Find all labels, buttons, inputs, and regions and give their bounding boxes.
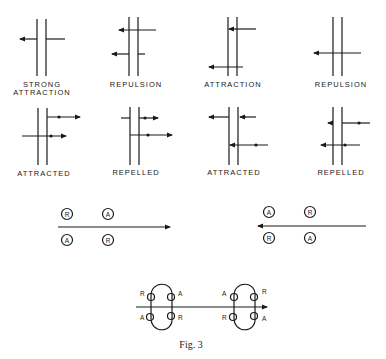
pole-a: A: [267, 209, 272, 216]
panel-attraction: ATTRACTION: [204, 17, 261, 89]
loops-diagram: R A A R A R R A: [136, 284, 267, 330]
panel-repulsion-1: REPULSION: [110, 17, 162, 89]
panel-repelled-1: REPELLED: [112, 107, 172, 177]
pole-r: R: [65, 211, 70, 218]
poles-moving-right: R A A R: [58, 209, 170, 246]
label-r: R: [262, 288, 267, 295]
pole-a: A: [106, 211, 111, 218]
label-r: R: [178, 314, 183, 321]
pole-r: R: [308, 209, 313, 216]
label-attraction: ATTRACTION: [204, 80, 261, 89]
figure-caption: Fig. 3: [179, 339, 202, 350]
pole-r: R: [267, 235, 272, 242]
label-attraction: ATTRACTION: [13, 88, 70, 97]
label-repulsion: REPULSION: [110, 80, 162, 89]
panel-attracted-1: ATTRACTED: [17, 108, 80, 178]
label-a: A: [140, 314, 145, 321]
pole-a: A: [65, 237, 70, 244]
label-a: A: [178, 290, 183, 297]
label-r: R: [222, 314, 227, 321]
poles-moving-left: A R R A: [258, 207, 366, 244]
label-r: R: [140, 290, 145, 297]
label-a: A: [262, 315, 267, 322]
label-attracted: ATTRACTED: [207, 168, 260, 177]
label-repelled: REPELLED: [112, 168, 159, 177]
label-attracted: ATTRACTED: [17, 169, 70, 178]
pole-a: A: [308, 235, 313, 242]
panel-repelled-2: REPELLED: [317, 107, 370, 177]
panel-strong-attraction: STRONG ATTRACTION: [13, 19, 70, 97]
figure-3-diagram: STRONG ATTRACTION REPULSION ATTRACTION R…: [0, 0, 386, 359]
label-repulsion: REPULSION: [315, 80, 367, 89]
label-a: A: [222, 290, 227, 297]
panel-attracted-2: ATTRACTED: [207, 107, 268, 177]
pole-r: R: [106, 237, 111, 244]
label-repelled: REPELLED: [317, 168, 364, 177]
panel-repulsion-2: REPULSION: [314, 17, 367, 89]
